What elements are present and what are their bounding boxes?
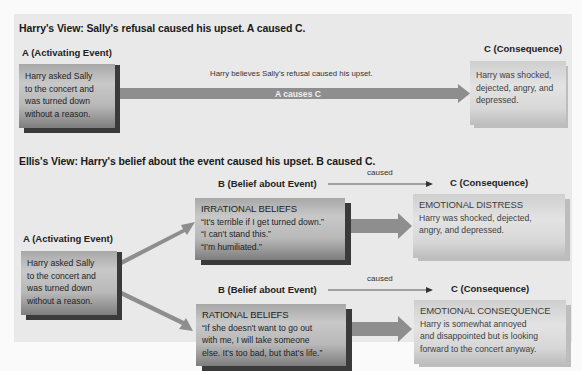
text-line: without a reason. bbox=[27, 295, 111, 308]
text-line: Harry is somewhat annoyed bbox=[420, 318, 560, 331]
a-to-irrational-arrow bbox=[118, 222, 195, 266]
caused-label: caused bbox=[367, 168, 393, 177]
ellis-view-title: Ellis's View: Harry's belief about the e… bbox=[19, 155, 375, 167]
a-to-rational-arrow bbox=[118, 290, 193, 331]
irrational-beliefs-box: IRRATIONAL BELIEFS “It's terrible if I g… bbox=[195, 198, 345, 260]
box-heading: IRRATIONAL BELIEFS bbox=[201, 203, 339, 216]
harry-c-label: C (Consequence) bbox=[484, 43, 562, 54]
text-line: “I'm humiliated.” bbox=[201, 241, 339, 254]
text-line: angry, and depressed. bbox=[419, 224, 559, 237]
emotional-consequence-box: EMOTIONAL CONSEQUENCE Harry is somewhat … bbox=[414, 300, 566, 364]
rational-beliefs-box: RATIONAL BELIEFS “If she doesn't want to… bbox=[196, 304, 346, 366]
box-heading: EMOTIONAL DISTRESS bbox=[419, 199, 559, 212]
emotional-distress-box: EMOTIONAL DISTRESS Harry was shocked, de… bbox=[413, 194, 565, 258]
text-line: Harry asked Sally bbox=[25, 70, 109, 83]
a-causes-c-label: A causes C bbox=[275, 89, 321, 99]
harry-a-label: A (Activating Event) bbox=[22, 47, 112, 58]
text-line: to the concert and bbox=[25, 83, 109, 96]
harrys-view-title: Harry's View: Sally's refusal caused his… bbox=[19, 22, 305, 34]
caused-arrowhead-icon bbox=[426, 287, 433, 293]
text-line: forward to the concert anyway. bbox=[420, 343, 560, 356]
caused-label: caused bbox=[367, 274, 393, 283]
ellis-a-box: Harry asked Sally to the concert and was… bbox=[21, 251, 117, 315]
box-heading: RATIONAL BELIEFS bbox=[202, 309, 340, 322]
harry-c-box: Harry was shocked, dejected, angry, and … bbox=[470, 61, 566, 125]
text-line: was turned down bbox=[27, 282, 111, 295]
text-line: to the concert and bbox=[27, 270, 111, 283]
consequence-c-label: C (Consequence) bbox=[451, 283, 529, 294]
text-line: was turned down bbox=[25, 95, 109, 108]
harry-a-box: Harry asked Sally to the concert and was… bbox=[19, 64, 115, 128]
box-heading: EMOTIONAL CONSEQUENCE bbox=[420, 305, 560, 318]
text-line: “It's terrible if I get turned down.” bbox=[201, 216, 339, 229]
text-line: Harry was shocked, bbox=[476, 69, 560, 82]
text-line: “I can't stand this.” bbox=[201, 228, 339, 241]
text-line: and disappointed but is looking bbox=[420, 330, 560, 343]
text-line: Harry was shocked, dejected, bbox=[419, 212, 559, 225]
text-line: depressed. bbox=[476, 94, 560, 107]
caused-arrowhead-icon bbox=[426, 181, 433, 187]
text-line: without a reason. bbox=[25, 108, 109, 121]
rational-to-consequence-arrow bbox=[350, 316, 412, 342]
text-line: Harry asked Sally bbox=[27, 257, 111, 270]
rational-b-label: B (Belief about Event) bbox=[218, 284, 317, 295]
distress-c-label: C (Consequence) bbox=[450, 177, 528, 188]
ellis-a-label: A (Activating Event) bbox=[23, 233, 113, 244]
irrational-to-distress-arrow bbox=[350, 213, 412, 239]
text-line: “If she doesn't want to go out bbox=[202, 322, 340, 335]
irrational-b-label: B (Belief about Event) bbox=[218, 178, 317, 189]
text-line: dejected, angry, and bbox=[476, 82, 560, 95]
harry-arrow-caption: Harry believes Sally's refusal caused hi… bbox=[210, 69, 373, 78]
text-line: with me, I will take someone bbox=[202, 334, 340, 347]
text-line: else. It's too bad, but that's life.” bbox=[202, 347, 340, 360]
